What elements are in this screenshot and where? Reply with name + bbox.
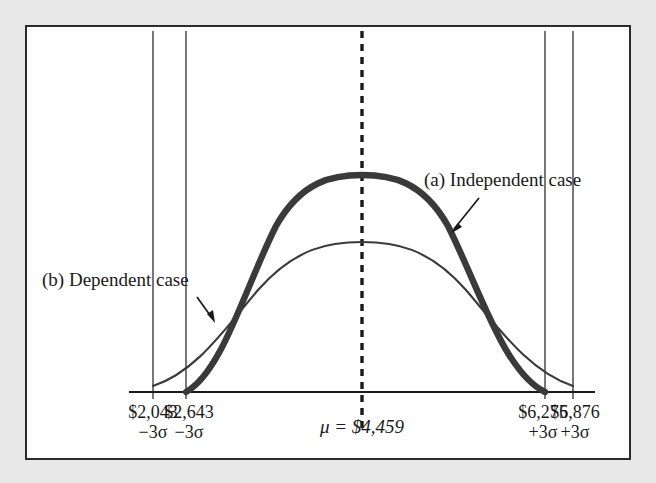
axis-tick-label-upper-dependent: $6,876 +3σ: [526, 403, 624, 442]
label-dependent-case: (b) Dependent case: [42, 270, 189, 290]
label-mean-value: μ = $4,459: [300, 417, 424, 437]
tick-sigma-upper-dependent: +3σ: [526, 423, 624, 442]
tick-value-lower-independent: $2,643: [140, 403, 238, 422]
figure-frame: [25, 25, 631, 460]
label-independent-case: (a) Independent case: [424, 170, 581, 190]
tick-value-upper-dependent: $6,876: [526, 403, 624, 422]
axis-tick-label-lower-independent: $2,643 −3σ: [140, 403, 238, 442]
figure-root: (a) Independent case (b) Dependent case …: [0, 0, 656, 483]
tick-sigma-lower-independent: −3σ: [140, 423, 238, 442]
